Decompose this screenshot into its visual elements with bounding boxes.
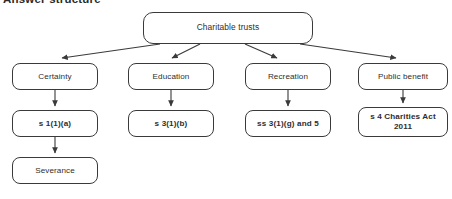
node-label: Education — [153, 72, 190, 82]
node-label: Public benefit — [378, 72, 428, 82]
edge-root-to-public-benefit — [300, 44, 396, 58]
node-label: Charitable trusts — [197, 23, 260, 33]
node-education[interactable]: Education — [128, 63, 214, 90]
node-certainty[interactable]: Certainty — [12, 63, 98, 90]
node-label: s 4 Charities Act — [370, 112, 436, 121]
diagram-canvas: Answer structure Charitable trusts Certa… — [0, 0, 452, 199]
node-label-wrapper: s 4 Charities Act 2011 — [370, 112, 436, 131]
node-s4-charities-act-2011[interactable]: s 4 Charities Act 2011 — [358, 107, 448, 137]
node-label: s 3(1)(b) — [155, 119, 188, 129]
edge-root-to-education — [172, 44, 200, 58]
node-charitable-trusts[interactable]: Charitable trusts — [143, 12, 313, 44]
node-label: ss 3(1)(g) and 5 — [257, 119, 319, 129]
node-s1-1-a[interactable]: s 1(1)(a) — [12, 110, 98, 137]
node-public-benefit[interactable]: Public benefit — [358, 63, 448, 90]
node-recreation[interactable]: Recreation — [245, 63, 331, 90]
node-label: Severance — [35, 166, 75, 176]
node-severance[interactable]: Severance — [12, 157, 98, 184]
node-ss3-1-g-and-5[interactable]: ss 3(1)(g) and 5 — [245, 110, 331, 137]
node-s3-1-b[interactable]: s 3(1)(b) — [128, 110, 214, 137]
page-title: Answer structure — [3, 0, 101, 5]
node-label: Certainty — [38, 72, 71, 82]
node-label-line2: 2011 — [370, 122, 436, 132]
edge-root-to-certainty — [62, 44, 160, 58]
edge-root-to-recreation — [245, 44, 277, 58]
node-label: Recreation — [268, 72, 308, 82]
node-label: s 1(1)(a) — [39, 119, 71, 129]
